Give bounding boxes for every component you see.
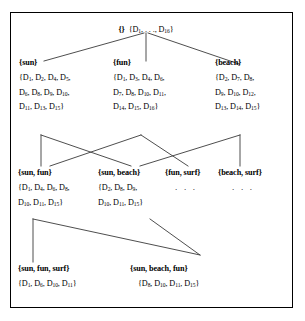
node-sun-docs-line-1: {D1, D2, D4, D5, [19,71,71,86]
node-sun-beach-label: {sun, beach} [98,167,143,178]
node-fun-surf-docs: . . . [165,181,200,195]
node-beach-surf-docs: . . . [218,181,262,195]
node-sun-fun-surf-docs-line-1: {D1, D6, D10, D11} [18,277,77,292]
node-sun-beach-docs: {D2, D8, D9, D10, D11, D15} [98,181,143,210]
node-root-docs: {D1, . . ., D16} [129,25,174,34]
node-sun-fun-docs: {D1, D4, D6, D8, D10, D11, D15} [18,181,70,210]
node-beach-docs-line-3: D13, D14, D15} [215,100,260,115]
node-beach-docs: {D2, D7, D8, D9, D10, D12, D13, D14, D15… [215,71,260,115]
node-beach-label: {beach} [215,57,260,68]
node-beach[interactable]: {beach} {D2, D7, D8, D9, D10, D12, D13, … [215,57,260,115]
node-sun-fun-surf-docs: {D1, D6, D10, D11} [18,277,77,292]
node-sun-fun-label: {sun, fun} [18,167,70,178]
node-sun-fun-docs-line-1: {D1, D4, D6, D8, [18,181,70,196]
node-sun-beach-fun-label: {sun, beach, fun} [130,263,199,274]
node-sun-docs-line-2: D6, D8, D9, D10, [19,86,71,101]
node-fun-surf[interactable]: {fun, surf} . . . [165,167,200,195]
node-root[interactable]: {} {D1, . . ., D16} [96,18,196,38]
node-fun-surf-docs-ellipsis: . . . [175,181,200,195]
node-sun[interactable]: {sun} {D1, D2, D4, D5, D6, D8, D9, D10, … [19,57,71,115]
node-sun-fun[interactable]: {sun, fun} {D1, D4, D6, D8, D10, D11, D1… [18,167,70,210]
node-beach-docs-line-2: D9, D10, D12, [215,86,260,101]
node-beach-surf-docs-ellipsis: . . . [232,181,262,195]
node-beach-surf[interactable]: {beach, surf} . . . [218,167,262,195]
node-beach-docs-line-1: {D2, D7, D8, [215,71,260,86]
node-sun-fun-docs-line-2: D10, D11, D15} [18,196,70,211]
node-sun-beach-docs-line-2: D10, D11, D15} [98,196,143,211]
node-fun-label: {fun} [113,57,166,68]
node-sun-beach-fun-docs-line-1: {D8, D10, D11, D15} [138,277,199,292]
node-fun[interactable]: {fun} {D1, D3, D4, D6, D7, D8, D10, D11,… [113,57,166,115]
node-fun-docs-line-1: {D1, D3, D4, D6, [113,71,166,86]
node-sun-docs-line-3: D11, D13, D15} [19,100,71,115]
node-fun-docs-line-2: D7, D8, D10, D11, [113,86,166,101]
node-sun-docs: {D1, D2, D4, D5, D6, D8, D9, D10, D11, D… [19,71,71,115]
node-fun-docs: {D1, D3, D4, D6, D7, D8, D10, D11, D14, … [113,71,166,115]
node-sun-beach[interactable]: {sun, beach} {D2, D8, D9, D10, D11, D15} [98,167,143,210]
node-sun-beach-docs-line-1: {D2, D8, D9, [98,181,143,196]
node-fun-docs-line-3: D14, D15, D16} [113,100,166,115]
node-sun-fun-surf[interactable]: {sun, fun, surf} {D1, D6, D10, D11} [18,263,77,292]
node-root-label: {} [118,25,124,34]
node-sun-label: {sun} [19,57,71,68]
node-beach-surf-label: {beach, surf} [218,167,262,178]
node-sun-fun-surf-label: {sun, fun, surf} [18,263,77,274]
lattice-figure: {} {D1, . . ., D16} {sun} {D1, D2, D4, D… [0,0,305,321]
node-sun-beach-fun[interactable]: {sun, beach, fun} {D8, D10, D11, D15} [130,263,199,292]
node-fun-surf-label: {fun, surf} [165,167,200,178]
node-sun-beach-fun-docs: {D8, D10, D11, D15} [130,277,199,292]
